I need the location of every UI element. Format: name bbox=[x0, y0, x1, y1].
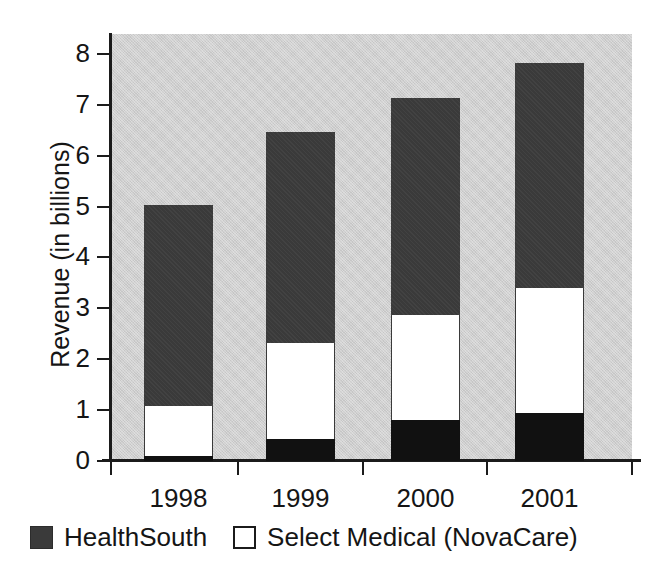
legend-label: HealthSouth bbox=[64, 522, 207, 552]
x-axis-tick-mark bbox=[362, 461, 364, 475]
legend-outline-square-icon bbox=[233, 526, 256, 549]
x-axis-category-label: 1998 bbox=[109, 483, 249, 513]
y-axis-tick-mark bbox=[97, 256, 111, 258]
x-axis-category-label: 2000 bbox=[356, 483, 496, 513]
y-axis-tick-label: 5 bbox=[48, 193, 90, 219]
chart-legend: HealthSouthSelect Medical (NovaCare) bbox=[30, 522, 578, 552]
y-axis-tick-label-text: 5 bbox=[50, 193, 90, 219]
bar-segment bbox=[515, 413, 584, 461]
revenue-stacked-bar-chart: Revenue (in billions) 012345678 19981999… bbox=[0, 0, 660, 565]
bar-group bbox=[391, 34, 460, 461]
bar-group bbox=[515, 34, 584, 461]
bar-segment bbox=[515, 63, 584, 288]
y-axis-tick-mark bbox=[97, 206, 111, 208]
y-axis-tick-mark bbox=[97, 104, 111, 106]
x-axis-tick-mark bbox=[237, 461, 239, 475]
legend-filled-square-icon bbox=[30, 526, 53, 549]
y-axis-tick-label: 2 bbox=[48, 345, 90, 371]
y-axis-tick-label-text: 2 bbox=[50, 345, 90, 371]
y-axis-tick-mark bbox=[97, 358, 111, 360]
y-axis-tick-label-text: 3 bbox=[50, 294, 90, 320]
x-axis-category-label: 2001 bbox=[480, 483, 620, 513]
bar-segment bbox=[144, 406, 213, 456]
y-axis-line bbox=[109, 33, 112, 462]
bar-segment bbox=[266, 343, 335, 439]
x-axis-category-label: 1999 bbox=[231, 483, 371, 513]
x-axis-tick-mark bbox=[631, 461, 633, 475]
bar-segment bbox=[391, 315, 460, 420]
x-axis-tick-mark bbox=[110, 461, 112, 475]
y-axis-tick-label-text: 6 bbox=[50, 142, 90, 168]
legend-entry[interactable]: HealthSouth bbox=[30, 522, 207, 552]
y-axis-tick-label-text: 7 bbox=[50, 91, 90, 117]
y-axis-tick-mark bbox=[97, 307, 111, 309]
bar-segment bbox=[144, 456, 213, 461]
bar-segment bbox=[515, 288, 584, 413]
y-axis-tick-label: 8 bbox=[48, 40, 90, 66]
legend-entry[interactable]: Select Medical (NovaCare) bbox=[233, 522, 578, 552]
bar-segment bbox=[391, 98, 460, 315]
y-axis-tick-label: 0 bbox=[48, 447, 90, 473]
y-axis-tick-label: 1 bbox=[48, 396, 90, 422]
bar-group bbox=[266, 34, 335, 461]
y-axis-tick-mark bbox=[97, 460, 111, 462]
y-axis-tick-label-text: 1 bbox=[50, 396, 90, 422]
y-axis-tick-mark bbox=[97, 155, 111, 157]
bar-segment bbox=[266, 439, 335, 461]
bar-segment bbox=[266, 132, 335, 343]
y-axis-tick-mark bbox=[97, 53, 111, 55]
bar-segment bbox=[391, 420, 460, 461]
bar-group bbox=[144, 34, 213, 461]
y-axis-tick-label-text: 8 bbox=[50, 40, 90, 66]
legend-label: Select Medical (NovaCare) bbox=[267, 522, 578, 552]
y-axis-tick-label: 7 bbox=[48, 91, 90, 117]
y-axis-tick-label: 6 bbox=[48, 142, 90, 168]
y-axis-tick-label: 3 bbox=[48, 294, 90, 320]
y-axis-tick-label: 4 bbox=[48, 243, 90, 269]
y-axis-tick-label-text: 4 bbox=[50, 243, 90, 269]
x-axis-tick-mark bbox=[486, 461, 488, 475]
y-axis-tick-mark bbox=[97, 409, 111, 411]
y-axis-tick-label-text: 0 bbox=[50, 447, 90, 473]
bar-segment bbox=[144, 205, 213, 406]
